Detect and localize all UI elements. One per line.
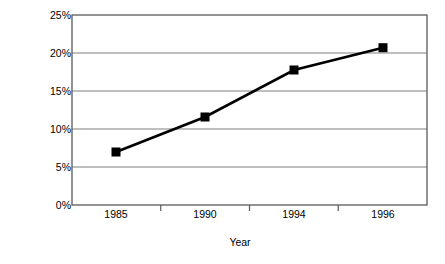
data-point-markers <box>112 43 388 156</box>
data-point-marker <box>290 66 299 75</box>
gridlines <box>72 53 427 167</box>
chart-svg <box>0 0 445 264</box>
data-point-marker <box>379 43 388 52</box>
plot-border <box>72 15 427 205</box>
data-point-marker <box>201 113 210 122</box>
x-axis-tick-label: 1994 <box>264 208 324 220</box>
line-chart-figure: Percent of Cases in Women 25% 20% 15% 10… <box>0 0 445 264</box>
plot-area <box>0 0 445 264</box>
x-axis-tick-label: 1996 <box>353 208 413 220</box>
x-axis-tick-label: 1990 <box>175 208 235 220</box>
data-point-marker <box>112 148 121 157</box>
x-axis-title: Year <box>180 236 300 248</box>
data-line-series <box>116 48 383 152</box>
x-axis-tick-label: 1985 <box>86 208 146 220</box>
